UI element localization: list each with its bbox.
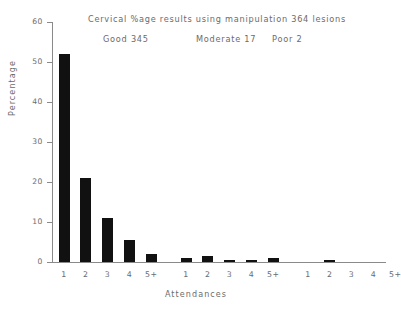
x-tick-label: 1 (305, 270, 310, 279)
y-tick-label: 30 (32, 137, 43, 146)
y-tick: 50 (47, 62, 52, 63)
bar (146, 254, 157, 262)
x-axis-line (52, 262, 386, 263)
x-tick-label: 1 (61, 270, 66, 279)
y-tick: 60 (47, 22, 52, 23)
x-tick-label: 4 (371, 270, 376, 279)
y-tick-label: 10 (32, 217, 43, 226)
x-tick-label: 3 (105, 270, 110, 279)
bar (59, 54, 70, 262)
x-tick-label: 2 (327, 270, 332, 279)
bar (224, 260, 235, 262)
bar (80, 178, 91, 262)
y-tick-label: 50 (32, 57, 43, 66)
plot-area: 0102030405060 12345+12345+12345+ (52, 22, 386, 262)
x-tick-label: 5+ (389, 270, 401, 279)
y-tick: 10 (47, 222, 52, 223)
y-tick-label: 60 (32, 17, 43, 26)
y-tick: 0 (47, 262, 52, 263)
x-tick-label: 4 (127, 270, 132, 279)
x-axis-title: Attendances (0, 290, 392, 299)
bar (102, 218, 113, 262)
bar (124, 240, 135, 262)
bar (268, 258, 279, 262)
y-axis-title: Percentage (8, 60, 17, 116)
bar (202, 256, 213, 262)
x-tick-label: 5+ (145, 270, 158, 279)
x-tick-label: 1 (183, 270, 188, 279)
x-tick-label: 3 (349, 270, 354, 279)
x-tick-label: 2 (83, 270, 88, 279)
x-tick-label: 5+ (267, 270, 280, 279)
y-tick: 30 (47, 142, 52, 143)
y-tick: 20 (47, 182, 52, 183)
bar (181, 258, 192, 262)
bar (324, 260, 335, 262)
x-tick-label: 4 (249, 270, 254, 279)
y-tick-label: 40 (32, 97, 43, 106)
y-tick-label: 0 (38, 257, 43, 266)
x-tick-label: 3 (227, 270, 232, 279)
y-tick-label: 20 (32, 177, 43, 186)
x-tick-label: 2 (205, 270, 210, 279)
y-tick: 40 (47, 102, 52, 103)
y-axis-line (52, 22, 53, 262)
bar (246, 260, 257, 262)
